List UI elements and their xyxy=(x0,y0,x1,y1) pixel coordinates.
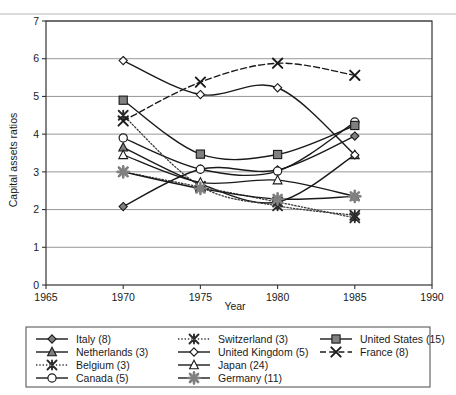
legend-label-belgium-3: Belgium (3) xyxy=(76,359,130,371)
y-axis-title: Capital assets ratios xyxy=(7,113,19,208)
chart-canvas: 01234567 196519701975198019851990 Capita… xyxy=(0,0,456,395)
datapoint-germany-11-1975 xyxy=(195,183,206,194)
x-tick-label-1985: 1985 xyxy=(343,291,367,303)
y-tick-label-7: 7 xyxy=(33,15,39,27)
datapoint-canada-5-1975 xyxy=(196,165,204,173)
y-tick-label-1: 1 xyxy=(33,241,39,253)
legend-marker-united-states-15 xyxy=(332,335,340,343)
y-tick-label-5: 5 xyxy=(33,90,39,102)
datapoint-germany-11-1985 xyxy=(349,191,360,202)
capital-assets-ratios-chart: 01234567 196519701975198019851990 Capita… xyxy=(0,0,456,395)
legend-label-france-8: France (8) xyxy=(360,346,408,358)
datapoint-canada-5-1970 xyxy=(119,134,127,142)
legend-label-united-states-15: United States (15) xyxy=(360,333,445,345)
x-tick-label-1990: 1990 xyxy=(420,291,444,303)
y-tick-label-4: 4 xyxy=(33,128,39,140)
legend-label-germany-11: Germany (11) xyxy=(218,372,282,384)
legend-marker-germany-11 xyxy=(188,372,199,383)
datapoint-germany-11-1970 xyxy=(118,166,129,177)
datapoint-united-states-15-1975 xyxy=(196,150,204,158)
x-tick-label-1975: 1975 xyxy=(189,291,213,303)
x-tick-label-1980: 1980 xyxy=(266,291,290,303)
datapoint-germany-11-1980 xyxy=(272,193,283,204)
legend-item-switzerland-3[interactable]: Switzerland (3) xyxy=(178,333,288,345)
legend-label-switzerland-3: Switzerland (3) xyxy=(218,333,288,345)
y-tick-label-3: 3 xyxy=(33,166,39,178)
x-tick-label-1970: 1970 xyxy=(112,291,136,303)
y-tick-label-6: 6 xyxy=(33,52,39,64)
legend-item-united-states-15[interactable]: United States (15) xyxy=(320,333,445,345)
datapoint-united-states-15-1980 xyxy=(274,150,282,158)
legend-label-canada-5: Canada (5) xyxy=(76,372,129,384)
legend-label-japan-24: Japan (24) xyxy=(218,359,268,371)
x-axis-title: Year xyxy=(224,300,246,312)
legend-marker-canada-5 xyxy=(48,374,56,382)
legend-label-united-kingdom-5: United Kingdom (5) xyxy=(218,346,308,358)
datapoint-united-states-15-1985 xyxy=(351,121,359,129)
datapoint-united-states-15-1970 xyxy=(119,96,127,104)
legend-label-netherlands-3: Netherlands (3) xyxy=(76,346,148,358)
y-tick-label-0: 0 xyxy=(33,279,39,291)
y-tick-label-2: 2 xyxy=(33,203,39,215)
legend-item-germany-11[interactable]: Germany (11) xyxy=(178,372,282,384)
x-tick-label-1965: 1965 xyxy=(34,291,58,303)
legend-label-italy-8: Italy (8) xyxy=(76,333,111,345)
datapoint-canada-5-1980 xyxy=(274,167,282,175)
